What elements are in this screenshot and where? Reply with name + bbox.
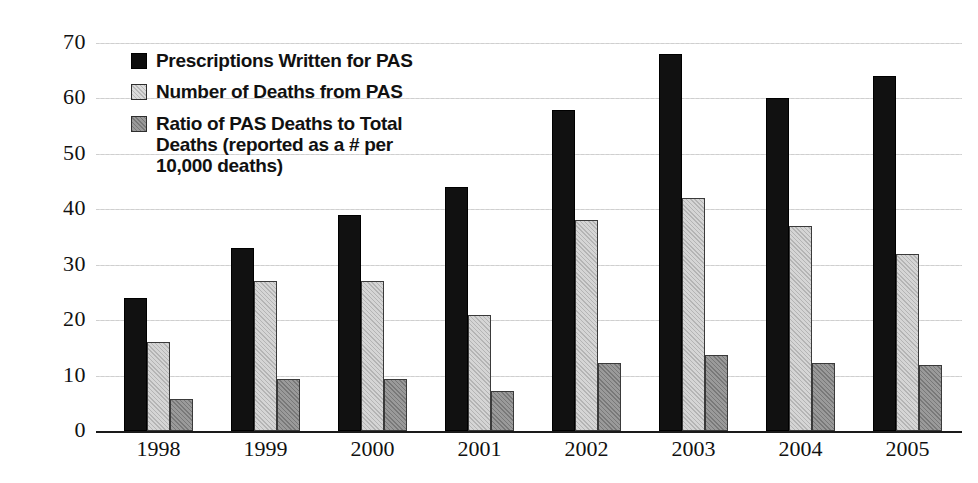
x-axis-tick-label: 1998 bbox=[104, 438, 214, 460]
bar bbox=[896, 254, 919, 431]
y-axis-tick-label: 0 bbox=[34, 419, 86, 441]
bar-chart: 706050403020100 199819992000200120022003… bbox=[0, 0, 978, 483]
x-axis-tick-label: 2002 bbox=[532, 438, 642, 460]
bar bbox=[873, 76, 896, 431]
bar bbox=[491, 391, 514, 431]
bar bbox=[705, 355, 728, 431]
bar bbox=[766, 98, 789, 431]
chart-legend: Prescriptions Written for PAS Number of … bbox=[131, 50, 471, 176]
legend-label-ratio: Ratio of PAS Deaths to Total Deaths (rep… bbox=[156, 113, 402, 177]
bar bbox=[682, 198, 705, 431]
legend-item-ratio: Ratio of PAS Deaths to Total Deaths (rep… bbox=[131, 113, 471, 177]
bar bbox=[789, 226, 812, 431]
bar bbox=[468, 315, 491, 431]
x-axis-tick-label: 2003 bbox=[639, 438, 749, 460]
legend-item-prescriptions: Prescriptions Written for PAS bbox=[131, 50, 471, 71]
bar-group bbox=[873, 36, 942, 436]
bar bbox=[919, 365, 942, 432]
bar bbox=[338, 215, 361, 431]
bar bbox=[598, 363, 621, 431]
y-axis-tick-label: 20 bbox=[34, 308, 86, 330]
y-axis-tick-label: 60 bbox=[34, 86, 86, 108]
x-axis-tick-label: 2005 bbox=[853, 438, 963, 460]
bar bbox=[575, 220, 598, 431]
bar bbox=[361, 281, 384, 431]
bar-group bbox=[766, 36, 835, 436]
y-axis: 706050403020100 bbox=[24, 36, 86, 436]
legend-label-prescriptions: Prescriptions Written for PAS bbox=[156, 50, 413, 71]
y-axis-tick-label: 50 bbox=[34, 142, 86, 164]
legend-swatch-black-icon bbox=[131, 53, 147, 69]
bar bbox=[659, 54, 682, 431]
x-axis-tick-label: 2004 bbox=[746, 438, 856, 460]
bar bbox=[384, 379, 407, 431]
legend-swatch-dark-gray-icon bbox=[131, 116, 147, 132]
bar-group bbox=[552, 36, 621, 436]
legend-label-deaths: Number of Deaths from PAS bbox=[156, 81, 403, 102]
y-axis-tick-label: 30 bbox=[34, 253, 86, 275]
bar bbox=[552, 110, 575, 431]
bar bbox=[231, 248, 254, 431]
bar bbox=[277, 379, 300, 431]
bar bbox=[445, 187, 468, 431]
x-axis-tick-label: 1999 bbox=[211, 438, 321, 460]
y-axis-tick-label: 40 bbox=[34, 197, 86, 219]
bar bbox=[254, 281, 277, 431]
bar bbox=[124, 298, 147, 431]
x-axis-tick-label: 2001 bbox=[425, 438, 535, 460]
bar bbox=[147, 342, 170, 431]
legend-swatch-light-gray-icon bbox=[131, 84, 147, 100]
bar-group bbox=[659, 36, 728, 436]
y-axis-tick-label: 10 bbox=[34, 364, 86, 386]
legend-item-deaths: Number of Deaths from PAS bbox=[131, 81, 471, 102]
bar bbox=[170, 399, 193, 431]
y-axis-tick-label: 70 bbox=[34, 31, 86, 53]
bar bbox=[812, 363, 835, 431]
x-axis-tick-label: 2000 bbox=[318, 438, 428, 460]
